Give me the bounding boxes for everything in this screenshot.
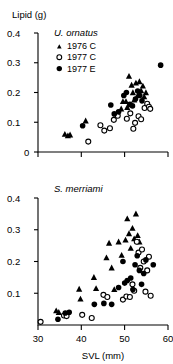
data-point-1976c [106, 240, 112, 246]
data-point-1976c [91, 274, 97, 280]
data-point-1977e [137, 93, 143, 99]
data-point-1976c [77, 296, 83, 302]
data-point-1977e [139, 282, 145, 288]
panel-title-upper: U. ornatus [54, 27, 98, 38]
data-point-1976c [93, 285, 99, 291]
lower-panel: S. merriami 0.4 0.3 0.2 0.1 [7, 183, 173, 361]
filled-triangle-icon [57, 44, 62, 48]
data-point-1977c [140, 247, 145, 252]
data-point-1977c [102, 128, 107, 133]
data-point-1977e [139, 98, 145, 104]
data-point-1977c [139, 117, 144, 122]
data-point-1977c [86, 139, 91, 144]
data-point-1976c [128, 245, 134, 251]
data-point-1977e [130, 103, 136, 109]
data-point-1976c [126, 73, 132, 79]
data-point-1977e [141, 271, 147, 277]
x-tick-labels-lower: 30 40 50 60 [33, 333, 173, 344]
data-point-1977c [130, 282, 135, 287]
data-point-1976c [103, 254, 109, 260]
data-point-1977c [143, 289, 148, 294]
data-point-1977c [148, 106, 153, 111]
data-point-1977e [150, 262, 156, 268]
y-tick-label: 0.1 [7, 288, 20, 299]
x-ticks-lower [38, 325, 168, 330]
data-point-1976c [83, 118, 89, 124]
y-tick-label: 0.4 [7, 193, 20, 204]
y-tick-label: 0.4 [7, 28, 20, 39]
data-point-1977e [124, 90, 130, 96]
panel-title-lower: S. merriami [54, 183, 103, 194]
data-point-1977e [143, 257, 149, 263]
data-point-1977c [133, 120, 138, 125]
data-point-1977e [92, 302, 98, 308]
data-point-1977e [128, 275, 134, 281]
open-circle-icon [57, 55, 62, 60]
data-point-1977c [134, 239, 139, 244]
data-point-1976c [129, 225, 135, 231]
data-point-1977c [98, 123, 103, 128]
x-tick-label: 30 [33, 333, 44, 344]
x-axis-label-lower: SVL (mm) [82, 350, 124, 361]
legend-label-1976c: 1976 C [67, 41, 97, 51]
data-point-1976c [133, 211, 139, 217]
legend-label-1977e: 1977 E [67, 64, 96, 74]
y-tick-label: 0.1 [7, 117, 20, 128]
data-points-lower [38, 211, 156, 325]
data-point-1977c [89, 316, 94, 321]
data-point-1976c [109, 265, 115, 271]
data-point-1977c [127, 295, 132, 300]
data-point-1977c [124, 116, 129, 121]
data-point-1977e [116, 109, 122, 115]
data-point-1977c [128, 111, 133, 116]
y-tick-label: 0.3 [7, 224, 20, 235]
x-ticks-upper [38, 152, 168, 157]
data-point-1977c [105, 295, 110, 300]
data-point-1976c [143, 89, 149, 95]
data-point-1977e [133, 96, 139, 102]
legend-label-1977c: 1977 C [67, 52, 97, 62]
filled-circle-icon [57, 66, 62, 71]
x-tick-label: 40 [76, 333, 87, 344]
axis-lines-upper [38, 33, 168, 152]
data-point-1977c [107, 126, 112, 131]
data-point-1976c [126, 230, 132, 236]
y-tick-label: 0.2 [7, 256, 20, 267]
y-tick-label: 0.3 [7, 57, 20, 68]
data-point-1977c [131, 126, 136, 131]
y-tick-label: 0 [24, 147, 29, 158]
data-point-1977e [132, 262, 138, 268]
figure-svg: Lipid (g) U. ornatus 1976 C 1977 C 1977 … [0, 0, 173, 364]
data-point-1977c [111, 117, 116, 122]
data-point-1977e [120, 259, 126, 265]
data-point-1977e [116, 285, 122, 291]
x-tick-label: 60 [163, 333, 173, 344]
legend: 1976 C 1977 C 1977 E [57, 41, 97, 74]
data-point-1977e [134, 253, 140, 259]
x-tick-label: 50 [119, 333, 130, 344]
upper-panel: Lipid (g) U. ornatus 1976 C 1977 C 1977 … [7, 9, 168, 158]
data-point-1977c [80, 312, 85, 317]
data-point-1977c [38, 319, 43, 324]
data-point-1976c [135, 232, 141, 238]
data-point-1976c [124, 215, 130, 221]
y-axis-label-upper: Lipid (g) [12, 9, 46, 20]
data-point-1977e [101, 301, 107, 307]
data-point-1976c [136, 78, 142, 84]
data-point-1977e [80, 123, 86, 129]
data-point-1976c [119, 252, 125, 258]
data-point-1976c [116, 239, 122, 245]
data-point-1977e [66, 310, 72, 316]
y-tick-label: 0.2 [7, 87, 20, 98]
data-point-1976c [122, 237, 128, 243]
scatter-figure: Lipid (g) U. ornatus 1976 C 1977 C 1977 … [0, 0, 173, 364]
data-point-1977e [108, 102, 114, 108]
data-point-1977c [148, 293, 153, 298]
data-point-1977e [55, 316, 61, 322]
y-ticks-upper [34, 33, 38, 152]
data-point-1977e [109, 302, 115, 308]
data-points-upper [62, 62, 164, 144]
data-point-1976c [76, 286, 82, 292]
y-tick-labels-upper: 0.4 0.3 0.2 0.1 0 [7, 28, 29, 158]
y-tick-labels-lower: 0.4 0.3 0.2 0.1 [7, 193, 20, 299]
